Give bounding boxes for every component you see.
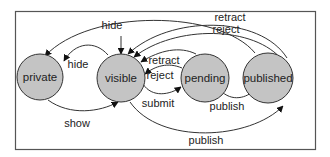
edge-label-reject: reject (147, 69, 174, 81)
edge-label-hide-top: hide (102, 19, 123, 31)
node-pending: pending (181, 54, 229, 102)
edge-label-submit: submit (142, 97, 174, 109)
node-label-pending: pending (185, 72, 226, 84)
state-diagram: hide hide show retract reject retract re… (0, 0, 330, 157)
edge-label-publish-bottom: publish (189, 134, 224, 146)
node-label-private: private (23, 71, 58, 83)
node-visible: visible (97, 54, 145, 102)
edge-label-retract-outer: retract (214, 11, 245, 23)
edge-label-retract: retract (148, 54, 179, 66)
node-label-published: published (243, 72, 292, 84)
node-label-visible: visible (105, 72, 137, 84)
edge-label-publish: publish (210, 100, 245, 112)
edge-label-hide: hide (68, 58, 89, 70)
edge-label-show: show (64, 117, 90, 129)
edge-label-reject-outer: reject (213, 23, 240, 35)
node-published: published (243, 53, 293, 103)
node-private: private (17, 54, 63, 100)
